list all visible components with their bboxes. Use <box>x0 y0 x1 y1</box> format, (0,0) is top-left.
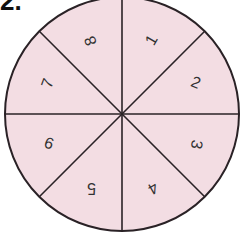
section-label-5: 5 <box>87 180 96 197</box>
spinner-diagram: 12345678 <box>0 0 242 233</box>
